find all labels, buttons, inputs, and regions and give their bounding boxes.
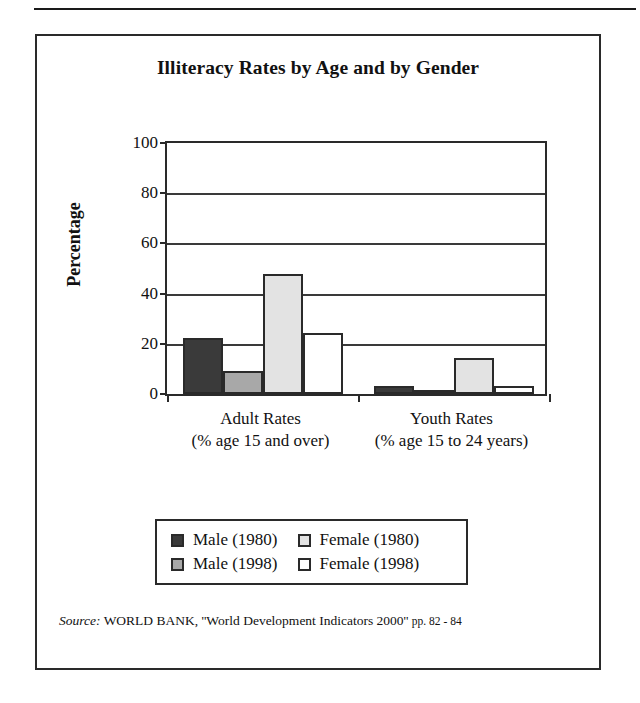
x-tick-mark: [549, 394, 551, 402]
bars-group: [167, 143, 545, 394]
source-note: Source: WORLD BANK, ''World Development …: [59, 613, 589, 629]
legend-swatch-icon: [171, 558, 184, 571]
bar-youth-rates-female-1980: [454, 358, 494, 394]
legend-swatch-icon: [298, 534, 311, 547]
bar-adult-rates-male-1980: [183, 338, 223, 394]
bar-youth-rates-male-1998: [414, 390, 454, 394]
legend-entries: Male (1980)Female (1980)Male (1998)Femal…: [171, 530, 419, 574]
legend-label: Male (1998): [193, 554, 278, 574]
legend-label: Male (1980): [193, 530, 278, 550]
figure-frame: Illiteracy Rates by Age and by Gender Pe…: [35, 34, 601, 670]
y-tick-mark: [160, 142, 167, 144]
legend-item-female-1998: Female (1998): [298, 554, 420, 574]
legend-label: Female (1998): [320, 554, 420, 574]
bar-adult-rates-male-1998: [223, 371, 263, 394]
y-tick-mark: [160, 242, 167, 244]
source-pages: pp. 82 - 84: [412, 615, 462, 627]
x-group-name: Adult Rates: [165, 408, 356, 430]
y-tick-mark: [160, 192, 167, 194]
chart-plot-wrapper: Percentage 020406080100 Adult Rates(% ag…: [37, 36, 603, 672]
y-tick-label: 40: [141, 284, 158, 304]
legend-swatch-icon: [171, 534, 184, 547]
chart-legend: Male (1980)Female (1980)Male (1998)Femal…: [155, 519, 468, 585]
y-axis-title: Percentage: [64, 165, 85, 325]
x-group-label-youth-rates: Youth Rates(% age 15 to 24 years): [356, 408, 547, 453]
x-group-sublabel: (% age 15 and over): [165, 430, 356, 452]
x-group-sublabel: (% age 15 to 24 years): [356, 430, 547, 452]
page-top-rule: [34, 8, 636, 10]
x-tick-mark: [358, 394, 360, 402]
y-tick-label: 20: [141, 334, 158, 354]
gridline: [167, 394, 545, 396]
plot-area: 020406080100: [165, 141, 547, 396]
x-tick-mark: [167, 394, 169, 402]
bar-youth-rates-male-1980: [374, 386, 414, 394]
legend-item-male-1998: Male (1998): [171, 554, 278, 574]
source-text: WORLD BANK, ''World Development Indicato…: [104, 613, 409, 628]
legend-item-female-1980: Female (1980): [298, 530, 420, 550]
y-tick-mark: [160, 293, 167, 295]
y-tick-mark: [160, 343, 167, 345]
y-tick-label: 80: [141, 183, 158, 203]
y-tick-mark: [160, 393, 167, 395]
source-label: Source:: [59, 613, 100, 628]
legend-item-male-1980: Male (1980): [171, 530, 278, 550]
bar-youth-rates-female-1998: [494, 386, 534, 394]
legend-swatch-icon: [298, 558, 311, 571]
x-group-label-adult-rates: Adult Rates(% age 15 and over): [165, 408, 356, 453]
legend-label: Female (1980): [320, 530, 420, 550]
bar-adult-rates-female-1998: [303, 333, 343, 394]
y-tick-label: 60: [141, 233, 158, 253]
x-axis-labels: Adult Rates(% age 15 and over)Youth Rate…: [165, 408, 547, 468]
y-tick-label: 100: [133, 133, 159, 153]
bar-adult-rates-female-1980: [263, 274, 303, 394]
x-group-name: Youth Rates: [356, 408, 547, 430]
y-tick-label: 0: [150, 384, 159, 404]
